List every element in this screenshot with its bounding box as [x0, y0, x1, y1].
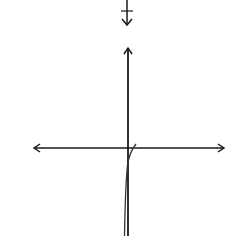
figure: [0, 0, 240, 236]
function-curve: [125, 144, 137, 236]
top-graph-fragment: [121, 0, 133, 25]
graph-c: [34, 48, 224, 236]
